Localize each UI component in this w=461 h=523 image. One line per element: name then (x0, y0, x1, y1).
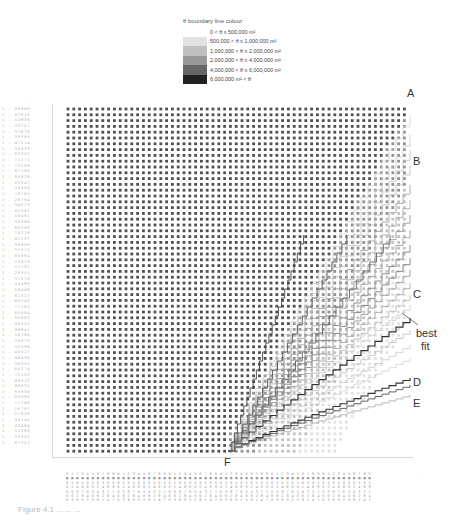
x-axis-tick-labels: 0 1 2 3 4 5 6 7 8 9 0 1 2 3 4 5 6 7 8 9 … (66, 472, 411, 503)
marker-best-fit: best (416, 327, 437, 339)
marker-e: E (413, 397, 420, 409)
marker-d: D (413, 376, 421, 388)
x-axis-unit: · · · · · (418, 473, 428, 477)
marker-c: C (413, 288, 421, 300)
x-tick-label-row: 0 2 4 6 8 0 2 4 6 8 0 2 4 6 8 0 2 4 6 8 … (66, 485, 411, 489)
marker-a: A (407, 87, 414, 99)
x-tick-label-row: 0 3 6 9 2 5 8 1 4 7 0 3 6 9 2 5 8 1 4 7 … (66, 498, 411, 502)
figure-caption: Figure 4.1 ... ... ... (18, 505, 81, 514)
boundary-grid-plot (0, 0, 461, 523)
marker-f: F (224, 456, 231, 468)
marker-b: B (413, 155, 420, 167)
marker-best-fit-2: fit (421, 340, 430, 352)
